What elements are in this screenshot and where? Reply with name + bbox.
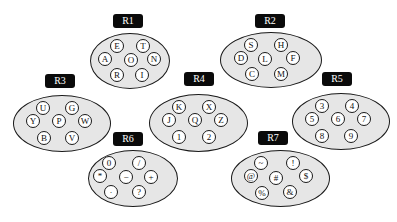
node: F — [286, 51, 300, 65]
region-label-r6: R6 — [113, 132, 143, 146]
node: $ — [299, 169, 313, 183]
node: 6 — [331, 112, 345, 126]
node: N — [147, 52, 161, 66]
node: I — [135, 68, 149, 82]
node: Q — [188, 113, 202, 127]
node: 1 — [172, 130, 186, 144]
node: 9 — [344, 129, 358, 143]
node: & — [283, 185, 297, 199]
node: Z — [214, 113, 228, 127]
node: % — [255, 186, 269, 200]
node: 7 — [357, 112, 371, 126]
region-label-r4: R4 — [184, 72, 214, 86]
node: E — [110, 39, 124, 53]
node: 0 — [102, 156, 116, 170]
region-r2: S H D L F C M — [220, 32, 322, 88]
node: + — [144, 170, 158, 184]
node: U — [36, 101, 50, 115]
node: M — [274, 67, 288, 81]
node: A — [98, 52, 112, 66]
region-r7: ~ ! @ # $ % & — [231, 150, 330, 207]
region-r5: 3 4 5 6 7 8 9 — [292, 93, 390, 150]
node: Y — [26, 114, 40, 128]
node: S — [244, 38, 258, 52]
node: 8 — [315, 129, 329, 143]
region-r3: U G Y P W B V — [13, 95, 111, 152]
node: V — [65, 131, 79, 145]
node: ! — [286, 156, 300, 170]
node: · — [104, 185, 118, 199]
node: X — [202, 100, 216, 114]
node: B — [37, 131, 51, 145]
region-label-r2: R2 — [255, 14, 285, 28]
node: K — [172, 100, 186, 114]
region-label-r5: R5 — [322, 72, 352, 86]
region-r4: K X J Q Z 1 2 — [149, 94, 248, 152]
node: L — [258, 52, 272, 66]
node: 2 — [202, 130, 216, 144]
node: W — [78, 114, 92, 128]
region-r1: E T A O N R I — [90, 33, 170, 89]
node: T — [136, 39, 150, 53]
node: @ — [244, 169, 258, 183]
node: C — [245, 67, 259, 81]
node: R — [110, 68, 124, 82]
node: / — [132, 156, 146, 170]
node: # — [269, 171, 283, 185]
node: D — [234, 51, 248, 65]
node: ~ — [254, 156, 268, 170]
region-label-r3: R3 — [45, 74, 75, 88]
node: O — [124, 53, 138, 67]
node: H — [274, 38, 288, 52]
node: J — [162, 113, 176, 127]
node: 3 — [315, 99, 329, 113]
node: * — [93, 169, 107, 183]
region-r6: 0 / * − + · ? — [88, 150, 178, 207]
node: 5 — [305, 112, 319, 126]
node: ? — [132, 185, 146, 199]
node: − — [119, 170, 133, 184]
node: 4 — [345, 99, 359, 113]
node: G — [65, 101, 79, 115]
node: P — [52, 114, 66, 128]
region-label-r7: R7 — [258, 131, 288, 145]
region-label-r1: R1 — [113, 14, 143, 28]
